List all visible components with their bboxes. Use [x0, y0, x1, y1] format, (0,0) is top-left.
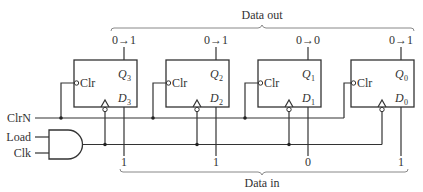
ff3-clr-label: Clr: [80, 76, 95, 90]
data-in-label: Data in: [245, 176, 280, 190]
d3-input-value: 1: [121, 155, 127, 169]
d0-input-value: 1: [398, 155, 404, 169]
clrn-label: ClrN: [7, 111, 31, 125]
ff2-clr-label: Clr: [172, 76, 187, 90]
q3-transition: 0→1: [112, 33, 136, 47]
ff2-d-label: D: [209, 91, 219, 105]
svg-text:2: 2: [219, 74, 223, 83]
svg-text:3: 3: [127, 74, 131, 83]
flip-flop-0: Clr Q 0 D 0: [351, 60, 414, 112]
ff1-q-label: Q: [302, 67, 311, 81]
load-label: Load: [6, 130, 31, 144]
ff0-clr-label: Clr: [357, 76, 372, 90]
q1-transition: 0→0: [296, 33, 320, 47]
ff0-d-label: D: [394, 91, 404, 105]
q0-transition: 0→1: [389, 33, 413, 47]
svg-text:1: 1: [311, 74, 315, 83]
svg-text:1: 1: [311, 98, 315, 107]
flip-flop-3: Clr Q 3 D 3: [74, 60, 137, 112]
q2-transition: 0→1: [204, 33, 228, 47]
flip-flop-2: Clr Q 2 D 2: [166, 60, 229, 112]
ff1-d-label: D: [301, 91, 311, 105]
clk-label: Clk: [14, 146, 31, 160]
ff1-clr-label: Clr: [264, 76, 279, 90]
flip-flop-1: Clr Q 1 D 1: [258, 60, 321, 112]
clock-wire: [82, 112, 382, 146]
svg-text:2: 2: [219, 98, 223, 107]
register-diagram: Data out 0→1 0→1 0→0 0→1 Clr Q 3 D 3 Clr…: [0, 0, 423, 192]
d1-input-value: 0: [305, 155, 311, 169]
data-in-bracket: [120, 169, 408, 175]
and-gate: [35, 130, 83, 159]
svg-text:0: 0: [404, 74, 408, 83]
ff0-q-label: Q: [395, 67, 404, 81]
ff3-d-label: D: [117, 91, 127, 105]
svg-text:0: 0: [404, 98, 408, 107]
ff3-q-label: Q: [118, 67, 127, 81]
d-input-wires: [124, 107, 401, 156]
ff2-q-label: Q: [210, 67, 219, 81]
svg-text:3: 3: [127, 98, 131, 107]
d2-input-value: 1: [213, 155, 219, 169]
data-out-label: Data out: [242, 8, 284, 22]
data-out-bracket: [111, 25, 414, 31]
